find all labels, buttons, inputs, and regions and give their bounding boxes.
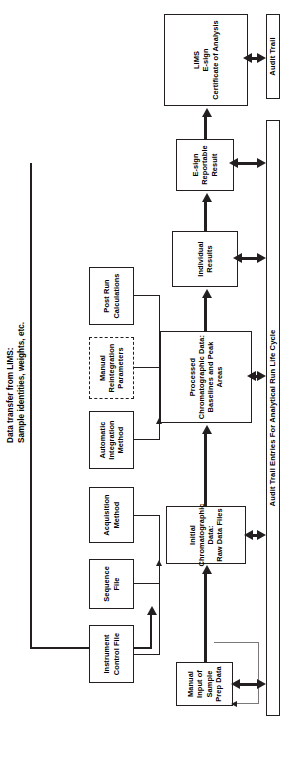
box-audit-trail[interactable]: Audit Trail bbox=[266, 14, 280, 99]
box-manual-reintegration-parameters-label: Manual Reintegration Parameters bbox=[98, 342, 125, 395]
box-audit-trail-label: Audit Trail bbox=[268, 35, 277, 77]
manual-input-to-initial-arrowhead bbox=[202, 565, 212, 574]
acquisition-method-drop bbox=[134, 515, 160, 516]
audit-link-esign-arrow-down bbox=[257, 159, 266, 169]
inputs-bus-to-initial-data bbox=[159, 564, 160, 615]
audit-link-individual-line bbox=[240, 257, 258, 260]
lims-feed-arrowhead bbox=[147, 606, 157, 615]
box-acquisition-method[interactable]: Acquisition Method bbox=[89, 487, 134, 543]
box-acquisition-method-label: Acquisition Method bbox=[102, 492, 120, 537]
manual-reintegration-drop bbox=[134, 367, 160, 368]
box-audit-trail-entries[interactable]: Audit Trail Entries For Analytical Run L… bbox=[266, 120, 280, 716]
box-automatic-integration-method-label: Automatic Integration Method bbox=[98, 418, 125, 461]
box-post-run-calculations[interactable]: Post Run Calculations bbox=[89, 267, 134, 325]
individual-to-esign-arrowhead bbox=[202, 193, 212, 202]
box-e-sign-reportable-result[interactable]: E-sign Reportable Result bbox=[176, 139, 234, 191]
sequence-file-drop bbox=[134, 583, 160, 584]
box-initial-chromatographic-data[interactable]: Initial Chromatographic Data: Raw Data F… bbox=[166, 506, 246, 564]
box-e-sign-reportable-result-label: E-sign Reportable Result bbox=[191, 143, 218, 187]
processed-to-individual-arrowhead bbox=[202, 289, 212, 298]
manual-input-feedback-arrowhead bbox=[231, 702, 237, 708]
initial-to-processed-line bbox=[204, 433, 207, 506]
box-processed-chromatographic-data[interactable]: Processed Chromatographic Data: Baseline… bbox=[160, 331, 252, 423]
manual-input-feedback-bottom bbox=[258, 642, 259, 704]
box-audit-trail-entries-label: Audit Trail Entries For Analytical Run L… bbox=[268, 328, 277, 509]
audit-link-lims-arrow-up bbox=[243, 54, 252, 64]
lims-feed-horizontal-line bbox=[30, 163, 32, 649]
box-sequence-file[interactable]: Sequence File bbox=[89, 559, 134, 609]
flowchart-canvas: Data transfer from LIMS: Sample identiti… bbox=[0, 0, 283, 761]
box-individual-results-label: Individual Results bbox=[196, 239, 214, 279]
manual-input-feedback-riser bbox=[236, 703, 259, 704]
box-instrument-control-file-label: Instrument Control File bbox=[102, 631, 120, 677]
box-manual-input-sample-prep-data-label: Manual Input of Sample Prep Data bbox=[186, 664, 222, 703]
box-manual-input-sample-prep-data[interactable]: Manual Input of Sample Prep Data bbox=[176, 662, 233, 706]
box-lims-certificate-of-analysis[interactable]: LIMS E-sign Certificate of Analysis bbox=[164, 14, 248, 106]
box-automatic-integration-method[interactable]: Automatic Integration Method bbox=[89, 411, 134, 469]
audit-link-processed-arrow-up bbox=[247, 372, 256, 382]
audit-link-initial-arrow-up bbox=[244, 531, 253, 541]
inputs-bus-arrowhead-initial bbox=[156, 560, 162, 566]
audit-link-individual-arrow-up bbox=[233, 254, 242, 264]
audit-link-esign-line bbox=[236, 162, 258, 165]
processed-to-individual-line bbox=[204, 297, 207, 331]
box-sequence-file-label: Sequence File bbox=[102, 564, 120, 604]
esign-to-lims-arrowhead bbox=[202, 108, 212, 117]
audit-link-initial-arrow-down bbox=[257, 531, 266, 541]
box-individual-results[interactable]: Individual Results bbox=[172, 231, 238, 287]
post-run-calculations-drop bbox=[134, 295, 160, 296]
audit-link-lims-arrow-down bbox=[257, 54, 266, 64]
manual-input-to-initial-line bbox=[204, 573, 207, 662]
box-manual-reintegration-parameters[interactable]: Manual Reintegration Parameters bbox=[89, 337, 134, 399]
audit-link-esign-arrow-up bbox=[229, 159, 238, 169]
individual-to-esign-line bbox=[204, 201, 207, 231]
audit-link-manual-input-arrow-up bbox=[231, 680, 240, 690]
automatic-integration-method-drop bbox=[134, 439, 160, 440]
instrument-control-file-drop bbox=[134, 654, 160, 655]
box-processed-chromatographic-data-label: Processed Chromatographic Data: Baseline… bbox=[188, 332, 224, 422]
lims-transfer-caption: Data transfer from LIMS: Sample identiti… bbox=[6, 183, 27, 443]
manual-input-feedback-left bbox=[214, 642, 259, 643]
audit-link-processed-arrow-down bbox=[257, 372, 266, 382]
audit-link-manual-input-line bbox=[238, 683, 258, 686]
initial-to-processed-arrowhead bbox=[202, 425, 212, 434]
audit-link-individual-arrow-down bbox=[257, 254, 266, 264]
audit-link-manual-input-arrow-down bbox=[257, 680, 266, 690]
box-lims-certificate-of-analysis-label: LIMS E-sign Certificate of Analysis bbox=[192, 18, 219, 102]
instrument-control-file-join bbox=[159, 615, 160, 655]
box-instrument-control-file[interactable]: Instrument Control File bbox=[89, 625, 134, 683]
esign-to-lims-line bbox=[204, 116, 207, 139]
box-initial-chromatographic-data-label: Initial Chromatographic Data: Raw Data F… bbox=[188, 501, 224, 568]
lims-feed-into-sequence-line bbox=[150, 613, 152, 649]
box-post-run-calculations-label: Post Run Calculations bbox=[102, 271, 120, 320]
